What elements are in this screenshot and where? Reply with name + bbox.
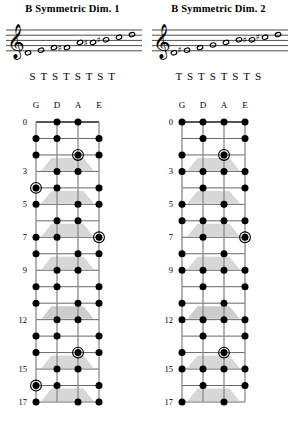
interval-T: T	[241, 70, 253, 82]
interval-S: S	[253, 70, 264, 82]
interval-T: T	[61, 70, 73, 82]
scale-note-dot	[96, 250, 103, 257]
scale-note-dot	[221, 250, 228, 257]
scale-note-dot	[200, 217, 207, 224]
fret-inlay-group	[42, 158, 94, 401]
scale-note-dot	[179, 267, 186, 274]
scale-note-dot	[221, 316, 228, 323]
string-label-D: D	[54, 100, 61, 110]
interval-T: T	[84, 70, 96, 82]
scale-note-dot	[33, 135, 40, 142]
scale-note-dot	[242, 135, 249, 142]
scale-note-dot	[54, 267, 61, 274]
root-note-dot	[242, 234, 249, 241]
scale-note-dot	[242, 267, 249, 274]
string-label-E: E	[96, 100, 102, 110]
fret-inlay-marker	[42, 158, 94, 170]
whole-note-head	[275, 32, 282, 38]
scale-note-dot	[96, 283, 103, 290]
staff-svg: 𝄞♯♯♯	[148, 22, 290, 66]
scale-note-dot	[33, 234, 40, 241]
interval-T: T	[173, 70, 185, 82]
scale-note-dot	[179, 119, 186, 126]
interval-pattern-1: STSTSTST	[0, 70, 145, 82]
fret-number-3: 3	[23, 166, 27, 176]
scale-note-dot	[221, 217, 228, 224]
fret-number-0: 0	[169, 117, 173, 127]
scale-note-dot	[242, 316, 249, 323]
scale-note-dot	[221, 300, 228, 307]
sharp-accidental-icon: ♯	[84, 38, 88, 48]
scale-note-dot	[75, 399, 82, 406]
string-label-G: G	[179, 100, 186, 110]
scale-note-dot	[242, 333, 249, 340]
staff-line-group	[152, 30, 288, 51]
scale-note-dot	[221, 201, 228, 208]
sharp-accidental-icon: ♯	[58, 43, 62, 53]
scale-note-dot	[54, 333, 61, 340]
scale-note-dot	[54, 135, 61, 142]
scale-note-dot	[75, 201, 82, 208]
string-labels-1: GDAE	[0, 100, 145, 112]
whole-note-head	[129, 32, 136, 38]
scale-note-dot	[75, 300, 82, 307]
interval-S: S	[185, 70, 196, 82]
interval-S: S	[50, 70, 61, 82]
scale-note-dot	[54, 316, 61, 323]
scale-note-dot	[33, 283, 40, 290]
fret-inlay-marker	[42, 224, 94, 236]
scale-note-dot	[200, 382, 207, 389]
scale-note-dot	[33, 333, 40, 340]
diagram-title: B Symmetric Dim. 2	[146, 3, 291, 14]
scale-diagram-1: B Symmetric Dim. 1 𝄞♯♯♯ STSTSTST GDAE 03…	[0, 0, 145, 426]
fret-inlay-group	[188, 158, 240, 401]
scale-note-dot	[96, 184, 103, 191]
scale-note-dot	[200, 184, 207, 191]
fret-inlay-marker	[188, 191, 240, 203]
scale-note-dot	[200, 119, 207, 126]
string-label-A: A	[221, 100, 228, 110]
whole-note-head	[184, 47, 191, 53]
scale-note-dot	[96, 349, 103, 356]
fret-number-group: 03579121517	[165, 117, 174, 407]
fret-inlay-marker	[42, 389, 94, 401]
interval-T: T	[196, 70, 208, 82]
scale-note-dot	[200, 168, 207, 175]
scale-note-dot	[200, 135, 207, 142]
interval-S: S	[208, 70, 219, 82]
whole-note-head	[210, 42, 217, 48]
scale-note-dot	[200, 267, 207, 274]
scale-note-dot	[242, 217, 249, 224]
interval-S: S	[230, 70, 241, 82]
scale-note-dot	[75, 217, 82, 224]
fret-number-15: 15	[19, 364, 28, 374]
scale-note-dot	[179, 399, 186, 406]
scale-note-dot	[179, 300, 186, 307]
scale-note-dot	[242, 119, 249, 126]
fret-inlay-marker	[188, 356, 240, 368]
scale-note-dot	[221, 399, 228, 406]
scale-note-dot	[96, 333, 103, 340]
fret-number-0: 0	[23, 117, 27, 127]
treble-clef-icon: 𝄞	[7, 23, 25, 60]
scale-note-dot	[200, 333, 207, 340]
fret-number-15: 15	[165, 364, 174, 374]
scale-note-dot	[179, 168, 186, 175]
fret-number-5: 5	[23, 199, 27, 209]
scale-diagram-page: B Symmetric Dim. 1 𝄞♯♯♯ STSTSTST GDAE 03…	[0, 0, 291, 426]
scale-note-dot	[96, 151, 103, 158]
scale-note-dot	[179, 201, 186, 208]
scale-note-dot	[242, 184, 249, 191]
diagram-title: B Symmetric Dim. 1	[0, 3, 145, 14]
fret-number-7: 7	[23, 232, 27, 242]
scale-note-dot	[33, 250, 40, 257]
scale-note-dot	[75, 250, 82, 257]
root-note-dot	[75, 151, 82, 158]
fret-inlay-marker	[42, 356, 94, 368]
scale-note-dot	[96, 135, 103, 142]
whole-note-head	[249, 37, 256, 43]
scale-note-dot	[75, 119, 82, 126]
scale-note-dot	[179, 366, 186, 373]
scale-note-dot	[75, 267, 82, 274]
string-labels-2: GDAE	[146, 100, 291, 112]
